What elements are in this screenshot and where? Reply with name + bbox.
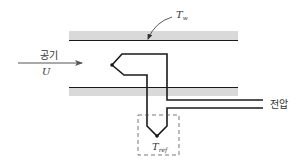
top-duct-wall bbox=[69, 31, 238, 41]
reference-junction-icon bbox=[155, 134, 159, 138]
voltage-label: 전압 bbox=[270, 98, 288, 110]
velocity-label: U bbox=[42, 66, 51, 77]
air-label: 공기 bbox=[40, 50, 58, 61]
reference-temperature-label: Tref bbox=[152, 141, 169, 154]
thermocouple-diagram: Tw 공기 U Tref 전압 bbox=[0, 0, 305, 165]
wall-temperature-label: Tw bbox=[176, 9, 189, 21]
bottom-duct-wall bbox=[69, 88, 238, 97]
measuring-junction-icon bbox=[110, 63, 114, 67]
